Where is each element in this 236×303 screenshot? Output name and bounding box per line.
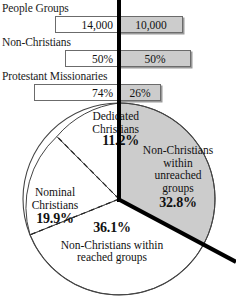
pie-label-reached-nonchristians: 36.1% Non-Christians within reached grou… (42, 222, 182, 264)
pie-label-nominal-christians: Nominal Christians 19.9% (10, 186, 100, 226)
infographic-root: People Groups 14,000 10,000 Non-Christia… (0, 0, 236, 303)
pie-label-nominal-line1: Nominal (10, 186, 100, 199)
pie-label-dedicated-christians: Dedicated Christians 11.2% (55, 110, 139, 148)
pie-label-reached-line2: reached groups (42, 251, 182, 264)
pie-label-unreached-line2: within (128, 157, 228, 170)
pie-label-unreached-line3: unreached (128, 169, 228, 182)
pie-label-unreached-nonchristians: Non-Christians within unreached groups 3… (128, 144, 228, 210)
pie-label-nominal-line2: Christians (10, 199, 100, 212)
pie-value-reached: 36.1% (42, 222, 182, 235)
pie-label-unreached-line1: Non-Christians (128, 144, 228, 157)
pie-label-dedicated-line1: Dedicated (55, 110, 139, 123)
pie-label-unreached-line4: groups (128, 182, 228, 195)
pie-value-unreached: 32.8% (128, 197, 228, 210)
pie-label-reached-line1: Non-Christians within (42, 239, 182, 252)
vertical-divider-rule (117, 0, 121, 202)
pie-value-dedicated: 11.2% (55, 135, 139, 148)
